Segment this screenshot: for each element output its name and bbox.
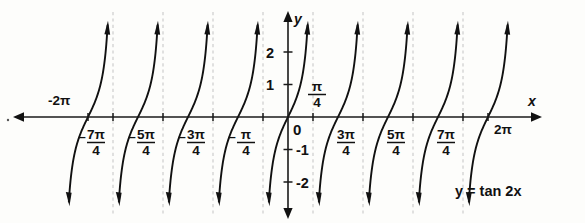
fraction-numerator: 7π — [87, 127, 105, 142]
curve-arrow-down — [266, 192, 272, 206]
x-tick-label-0: -2π — [48, 93, 70, 108]
fraction-numerator: 5π — [137, 127, 155, 142]
equation-label: y = tan 2x — [455, 183, 522, 199]
fraction-denominator: 4 — [242, 143, 250, 158]
origin-label: 0 — [293, 121, 301, 138]
tan-branch — [119, 25, 158, 201]
curve-arrow-up — [304, 21, 310, 35]
y-axis-arrow-down — [283, 208, 292, 219]
curve-arrow-up — [204, 21, 210, 35]
x-tick-label-9: 2π — [494, 122, 512, 137]
fraction-minus-sign: – — [228, 129, 236, 144]
curve-arrow-up — [354, 21, 360, 35]
x-axis-arrow-right — [531, 112, 542, 122]
fraction-denominator: 4 — [442, 143, 450, 158]
x-tick-label-8: 7π4 — [437, 127, 455, 158]
x-tick-label-5: π4 — [308, 79, 326, 110]
y-axis-arrow-up — [283, 11, 292, 22]
fraction-denominator: 4 — [92, 143, 100, 158]
x-tick-label-7: 5π4 — [387, 127, 405, 158]
fraction-minus-sign: – — [128, 129, 136, 144]
curve-arrow-up — [254, 21, 260, 35]
y-tick-label-3: -2 — [296, 175, 309, 191]
curve-arrow-up — [504, 21, 510, 35]
fraction-numerator: 3π — [187, 127, 205, 142]
curve-arrow-down — [116, 192, 122, 206]
fraction-numerator: 5π — [387, 127, 405, 142]
curve-arrow-up — [404, 21, 410, 35]
fraction-denominator: 4 — [142, 143, 150, 158]
x-axis-label: x — [527, 93, 537, 109]
tan-branch — [169, 25, 208, 201]
fraction-numerator: π — [312, 79, 322, 94]
y-tick-label-1: 1 — [266, 77, 274, 93]
curve-arrow-up — [104, 21, 110, 35]
fraction-numerator: π — [241, 127, 251, 142]
tan-branch — [419, 25, 458, 201]
curve-arrow-up — [154, 21, 160, 35]
fraction-denominator: 4 — [392, 143, 400, 158]
fraction-minus-sign: – — [78, 129, 86, 144]
y-tick-label-0: 2 — [266, 45, 274, 61]
x-tick-label-4: π4– — [228, 127, 255, 158]
fraction-denominator: 4 — [342, 143, 350, 158]
curve-arrow-down — [366, 192, 372, 206]
x-axis-arrow-left — [13, 112, 24, 122]
x-tick-label-2: 5π4– — [128, 127, 155, 158]
curve-arrow-down — [66, 192, 72, 206]
tan-branch — [319, 25, 358, 201]
tan-branch — [219, 25, 258, 201]
fraction-minus-sign: – — [178, 129, 186, 144]
x-tick-label-1: 7π4– — [78, 127, 105, 158]
fraction-numerator: 3π — [337, 127, 355, 142]
tan-2x-graph: -2π7π4–5π4–3π4–π4–π43π45π47π42π21-1-20xy… — [0, 0, 585, 223]
x-tick-label-3: 3π4– — [178, 127, 205, 158]
fraction-denominator: 4 — [313, 95, 321, 110]
curve-arrow-down — [166, 192, 172, 206]
fraction-denominator: 4 — [192, 143, 200, 158]
y-axis-label: y — [293, 11, 303, 27]
tan-branch — [369, 25, 408, 201]
stray-dot — [7, 119, 9, 121]
curve-arrow-down — [416, 192, 422, 206]
fraction-numerator: 7π — [437, 127, 455, 142]
curve-arrow-down — [216, 192, 222, 206]
curve-arrow-down — [316, 192, 322, 206]
y-tick-label-2: -1 — [296, 142, 309, 158]
x-tick-label-6: 3π4 — [337, 127, 355, 158]
curve-arrow-up — [454, 21, 460, 35]
